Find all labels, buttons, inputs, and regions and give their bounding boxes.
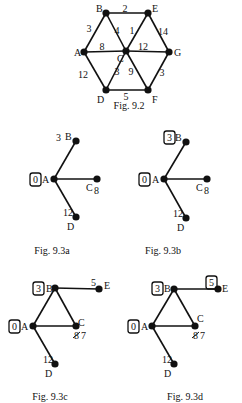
figure-caption: Fig. 9.3b	[145, 245, 181, 256]
node-label-E: E	[152, 3, 158, 14]
edge-A-C	[84, 51, 126, 52]
node-label-A: A	[141, 321, 149, 332]
edge-weight-D-C: 3	[115, 66, 120, 77]
edge-weight-G-F: 3	[160, 67, 165, 78]
edge-B-E	[55, 288, 99, 289]
permanent-distance-label: 0	[12, 321, 17, 332]
node-label-D: D	[177, 222, 184, 233]
node-label-B: B	[65, 131, 72, 142]
figure-9-3c-step: ABCDE3087512Fig. 9.3c	[9, 277, 110, 402]
node-B	[182, 138, 189, 145]
node-label-C: C	[86, 182, 93, 193]
permanent-distance-label: 5	[209, 277, 214, 288]
node-D	[72, 213, 79, 220]
tentative-distance-label: 5	[91, 277, 96, 288]
node-E	[144, 9, 151, 16]
edge-A-B	[164, 142, 186, 179]
tentative-distance-label: 7	[81, 330, 86, 341]
node-D	[102, 86, 109, 93]
node-label-C: C	[196, 182, 203, 193]
node-G	[165, 48, 172, 55]
tentative-distance-label: 12	[162, 354, 172, 365]
permanent-distance-label: 3	[36, 283, 41, 294]
figure-9-2-full-graph: 381224114123935ABCDEFGFig. 9.2	[74, 3, 181, 111]
node-label-B: B	[175, 132, 182, 143]
node-B	[102, 9, 109, 16]
node-label-D: D	[97, 94, 104, 105]
tentative-distance-label: 8	[204, 185, 209, 196]
permanent-distance-label: 3	[155, 283, 160, 294]
edge-weight-A-C: 8	[100, 41, 105, 52]
permanent-distance-label: 0	[33, 174, 38, 185]
tentative-distance-label: 3	[56, 132, 61, 143]
node-A	[160, 175, 167, 182]
edge-B-C	[55, 288, 76, 326]
node-label-B: B	[164, 283, 171, 294]
permanent-distance-label: 0	[142, 174, 147, 185]
tentative-distance-label: 12	[63, 207, 73, 218]
edge-weight-C-F: 9	[129, 66, 134, 77]
node-C	[93, 175, 100, 182]
edge-weight-E-G: 14	[158, 26, 168, 37]
node-E	[95, 285, 102, 292]
edge-G-F	[148, 52, 169, 90]
node-label-A: A	[74, 47, 82, 58]
edge-weight-B-E: 2	[123, 3, 128, 14]
tentative-distance-label: 12	[43, 354, 53, 365]
permanent-distance-label: 3	[167, 132, 172, 143]
node-A	[50, 175, 57, 182]
node-F	[144, 86, 151, 93]
node-label-B: B	[96, 3, 103, 14]
node-A	[80, 48, 87, 55]
edge-weight-A-D: 12	[78, 69, 88, 80]
node-label-B: B	[46, 283, 53, 294]
node-label-E: E	[104, 280, 110, 291]
node-label-G: G	[174, 47, 181, 58]
node-label-C: C	[117, 53, 124, 64]
figure-9-3a-step: ABCD30812Fig. 9.3a	[30, 131, 101, 256]
node-label-F: F	[152, 94, 158, 105]
tentative-distance-label: 12	[173, 208, 183, 219]
edge-weight-B-C: 4	[115, 25, 120, 36]
figure-caption: Fig. 9.3c	[32, 391, 68, 402]
node-A	[148, 322, 155, 329]
node-label-D: D	[164, 368, 171, 379]
permanent-distance-label: 0	[131, 321, 136, 332]
node-label-A: A	[42, 174, 50, 185]
edge-weight-A-B: 3	[87, 23, 92, 34]
node-label-D: D	[67, 221, 74, 232]
node-label-D: D	[45, 368, 52, 379]
figure-caption: Fig. 9.2	[114, 100, 145, 111]
figure-9-3d-step: ABCDE3058712Fig. 9.3d	[128, 276, 228, 402]
node-C	[203, 175, 210, 182]
tentative-distance-label: 7	[200, 330, 205, 341]
node-A	[29, 322, 36, 329]
node-label-C: C	[197, 313, 204, 324]
node-label-C: C	[78, 317, 85, 328]
tentative-distance-label: 8	[94, 185, 99, 196]
node-label-A: A	[21, 321, 29, 332]
figure-caption: Fig. 9.3a	[34, 245, 70, 256]
figure-caption: Fig. 9.3d	[167, 391, 203, 402]
diagram-canvas: 381224114123935ABCDEFGFig. 9.2 ABCD30812…	[0, 0, 242, 403]
edge-weight-E-C: 1	[130, 25, 135, 36]
node-B	[72, 137, 79, 144]
node-label-A: A	[152, 174, 160, 185]
node-D	[182, 214, 189, 221]
node-B	[170, 285, 177, 292]
figure-9-3b-step: ABCD30812Fig. 9.3b	[139, 131, 211, 256]
node-label-E: E	[222, 283, 228, 294]
edge-A-B	[54, 141, 76, 179]
edge-B-C	[174, 289, 195, 326]
edge-weight-C-G: 12	[138, 41, 148, 52]
